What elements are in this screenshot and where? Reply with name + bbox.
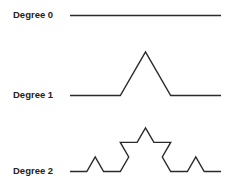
koch-curves [0, 0, 237, 187]
degree-2-curve [70, 128, 221, 172]
degree-1-curve [70, 52, 221, 96]
